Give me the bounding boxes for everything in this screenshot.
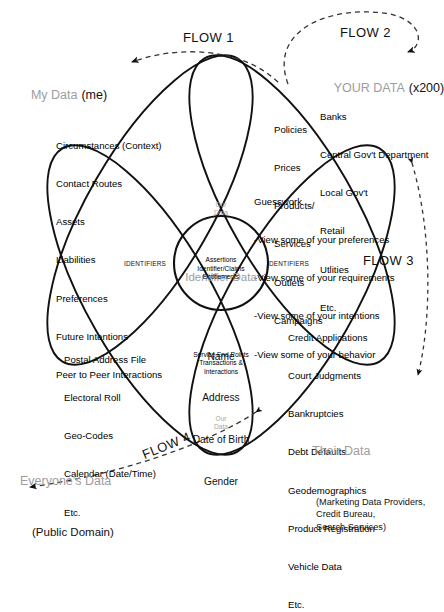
list-item: Banks bbox=[320, 111, 428, 124]
upper-overlap-gray: Our Data bbox=[176, 201, 266, 218]
my-data-heading: My Data(me) bbox=[17, 73, 107, 117]
list-item: -View some of your requirements bbox=[254, 272, 395, 285]
my-data-heading-gray: My Data bbox=[31, 88, 78, 102]
list-item: Assets bbox=[56, 216, 162, 229]
list-item: Circumstances (Context) bbox=[56, 140, 162, 153]
my-data-heading-black: (me) bbox=[81, 88, 107, 102]
everyones-data-heading-gray: Everyone's Data bbox=[20, 474, 114, 489]
their-data-heading-gray: Their Data bbox=[312, 444, 425, 459]
list-item: Central Gov't Department bbox=[320, 149, 428, 162]
flow1-arrow bbox=[132, 52, 278, 82]
list-item: Postal Address File bbox=[64, 354, 156, 367]
list-item: Court Judgments bbox=[288, 370, 375, 383]
upper-overlap-block: Our Data Assertions Identifier/Claims En… bbox=[176, 163, 266, 320]
lower-overlap-block: Service End Points Transactions & Intera… bbox=[176, 313, 266, 470]
their-data-heading: Their Data (Marketing Data Providers, Cr… bbox=[312, 406, 425, 570]
list-item: Electoral Roll bbox=[64, 392, 156, 405]
list-item: Etc. bbox=[288, 599, 375, 612]
list-item: -View some of your preferences bbox=[254, 234, 395, 247]
guesswork-title: Guesswork bbox=[254, 196, 395, 209]
flow-label-2: FLOW 2 bbox=[340, 25, 391, 40]
flow-label-1: FLOW 1 bbox=[183, 30, 234, 45]
everyones-data-heading-black: (Public Domain) bbox=[32, 526, 114, 540]
lower-overlap-gray: Our Data bbox=[176, 415, 266, 432]
list-item: Contact Routes bbox=[56, 178, 162, 191]
their-data-heading-black: (Marketing Data Providers, Credit Bureau… bbox=[316, 496, 425, 532]
list-item: Credit Applications bbox=[288, 332, 375, 345]
list-item: Preferences bbox=[56, 293, 162, 306]
upper-overlap-black: Assertions Identifier/Claims Entitlement… bbox=[176, 256, 266, 282]
everyones-data-heading: Everyone's Data (Public Domain) bbox=[20, 436, 114, 578]
identifiers-label-right: IDENTIFIERS bbox=[267, 260, 309, 268]
identifiers-label-left: IDENTIFIERS bbox=[124, 260, 166, 268]
lower-overlap-black: Service End Points Transactions & Intera… bbox=[176, 351, 266, 377]
list-item: Gender bbox=[171, 475, 271, 489]
list-item: Policies bbox=[274, 124, 323, 137]
